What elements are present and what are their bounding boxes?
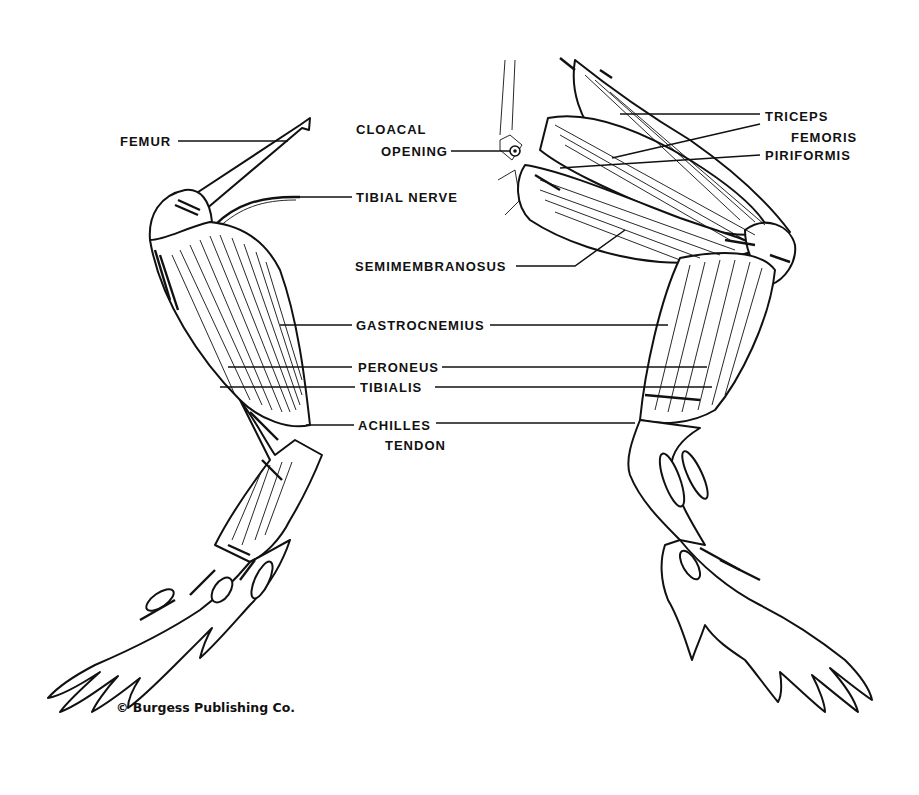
label-achilles-tendon-line1: ACHILLES (358, 418, 431, 433)
tibial-nerve-line (215, 197, 300, 225)
label-semimembranosus: SEMIMEMBRANOSUS (355, 259, 507, 274)
label-peroneus: PERONEUS (358, 360, 439, 375)
label-cloacal-opening-line1: CLOACAL (356, 122, 427, 137)
label-femur: FEMUR (120, 134, 171, 149)
left-gastrocnemius (150, 222, 310, 426)
label-triceps-femoris-line2: FEMORIS (791, 130, 857, 145)
frog-leg-muscle-diagram: FEMUR CLOACAL OPENING TIBIAL NERVE TRICE… (0, 0, 919, 795)
label-tibialis: TIBIALIS (360, 380, 422, 395)
label-piriformis: PIRIFORMIS (765, 148, 851, 163)
label-cloacal-opening-line2: OPENING (381, 144, 448, 159)
label-achilles-tendon-line2: TENDON (385, 438, 446, 453)
pelvis-outline (500, 60, 522, 160)
left-leg-drawing (48, 118, 322, 712)
left-foot (48, 540, 290, 712)
label-tibial-nerve: TIBIAL NERVE (356, 190, 458, 205)
label-gastrocnemius: GASTROCNEMIUS (356, 318, 485, 333)
label-triceps-femoris-line1: TRICEPS (765, 109, 828, 124)
copyright-credit: © Burgess Publishing Co. (116, 700, 295, 715)
